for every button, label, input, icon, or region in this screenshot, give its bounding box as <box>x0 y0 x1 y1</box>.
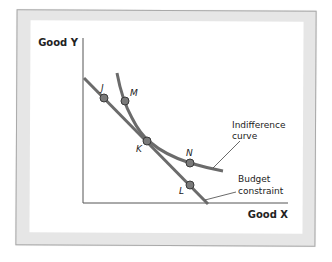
budget-leader-line <box>205 192 236 200</box>
point-l-label: L <box>179 186 184 196</box>
point-m <box>121 97 129 105</box>
indifference-curve-label-line1: Indifference <box>232 120 286 130</box>
point-m-label: M <box>130 88 138 98</box>
point-j <box>100 94 108 102</box>
indifference-diagram: Good Y Good X J M K N L Indifference cur… <box>0 0 332 262</box>
point-k-label: K <box>136 144 143 154</box>
x-axis-label: Good X <box>248 209 289 220</box>
point-k <box>143 137 151 145</box>
indifference-curve-label-line2: curve <box>232 131 258 141</box>
point-n-label: N <box>186 148 193 158</box>
budget-constraint-label-line1: Budget <box>238 174 271 184</box>
y-axis-label: Good Y <box>38 37 79 48</box>
point-n <box>186 159 194 167</box>
point-j-label: J <box>99 83 104 93</box>
point-l <box>186 181 194 189</box>
indifference-leader-line <box>213 141 240 168</box>
budget-constraint-label-line2: constraint <box>238 186 284 196</box>
